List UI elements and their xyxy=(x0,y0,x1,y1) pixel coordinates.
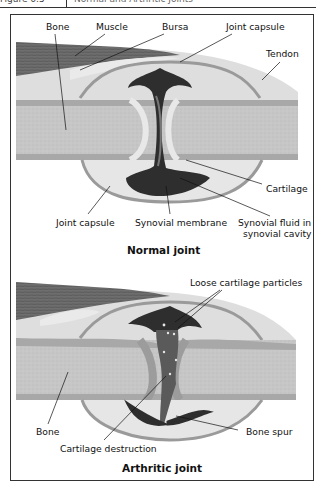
label-bone-2: Bone xyxy=(36,426,60,437)
caption-normal-joint: Normal joint xyxy=(127,244,200,256)
label-cartilage-destruction: Cartilage destruction xyxy=(60,443,157,454)
label-synovial-membrane: Synovial membrane xyxy=(135,217,227,228)
label-cartilage: Cartilage xyxy=(266,183,308,194)
label-bursa: Bursa xyxy=(162,21,188,32)
arthritic-joint-illustration xyxy=(16,282,296,440)
label-bone-spur: Bone spur xyxy=(246,426,293,437)
label-synovial-fluid-1: Synovial fluid in xyxy=(238,217,311,228)
label-loose-particles: Loose cartilage particles xyxy=(190,277,302,288)
label-synovial-fluid-2: synovial cavity xyxy=(243,228,312,239)
label-muscle: Muscle xyxy=(96,21,128,32)
normal-joint-illustration xyxy=(16,42,298,202)
label-tendon: Tendon xyxy=(265,48,299,59)
label-bone: Bone xyxy=(46,21,70,32)
caption-arthritic-joint: Arthritic joint xyxy=(122,462,202,474)
label-joint-capsule-bottom: Joint capsule xyxy=(55,217,115,228)
label-joint-capsule-top: Joint capsule xyxy=(225,21,285,32)
joint-illustration: Bone Muscle Bursa Joint capsule Tendon C… xyxy=(0,0,320,490)
